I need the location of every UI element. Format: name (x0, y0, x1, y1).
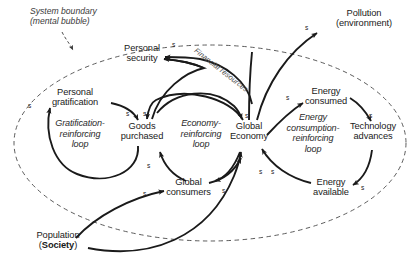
node-technology-advances: Technology advances (344, 121, 402, 142)
polarity-s-consumed-to-technology: s (369, 112, 372, 119)
node-personal-security: Personal security (113, 43, 171, 64)
polarity-s-economy-to-consumers: s (222, 187, 225, 194)
edge-consumed-to-technology (350, 98, 371, 121)
causal-loop-diagram: System boundary(mental bubble) Personal … (0, 0, 415, 267)
polarity-s-economy-to-pollution: s (305, 24, 308, 31)
polarity-s-economy-inflow-right: s (271, 168, 274, 175)
node-population-bold: Society (42, 240, 74, 250)
node-energy-available: Energy available (306, 177, 356, 198)
polarity-s-population-to-consumers: s (143, 190, 146, 197)
node-population: Population(Society) (27, 230, 89, 251)
polarity-s-economy-to-energy-consumed: s (286, 94, 289, 101)
system-boundary-label-line1: System boundary (30, 6, 97, 16)
polarity-s-goods-to-economy: s (245, 112, 248, 119)
polarity-s-goods-inflow-right: s (143, 110, 146, 117)
loop-gratification-reinforcing: Gratification- reinforcing loop (42, 118, 118, 150)
node-global-consumers: Global consumers (161, 177, 216, 198)
node-population-suffix: ) (74, 240, 77, 250)
boundary-pointer-arrow (62, 32, 73, 50)
node-energy-consumed: Energy consumed (300, 86, 352, 107)
polarity-s-gratification-to-goods: s (126, 110, 129, 117)
polarity-s-economy-inflow-left: s (259, 168, 262, 175)
edge-economy-to-pollution (257, 33, 317, 120)
node-personal-gratification: Personal gratification (39, 87, 111, 108)
node-goods-purchased: Goods purchased (118, 121, 166, 142)
polarity-s-technology-to-available: s (361, 184, 364, 191)
polarity-s-security-inflow: s (172, 41, 175, 48)
loop-energy-consumption-reinforcing: Energy consumption- reinforcing loop (279, 112, 347, 154)
system-boundary-label-line2: (mental bubble) (30, 16, 90, 26)
node-population-line1: Population (37, 230, 80, 240)
polarity-s-gratification-loop-left: s (28, 102, 31, 109)
edge-population-to-consumers (76, 191, 164, 238)
edge-population-to-economy (88, 152, 241, 251)
node-pollution: Pollution (environment) (325, 8, 403, 29)
system-boundary-label: System boundary(mental bubble) (30, 6, 97, 26)
loop-economy-reinforcing: Economy- reinforcing loop (168, 118, 234, 150)
polarity-s-goods-from-consumers: s (147, 162, 150, 169)
